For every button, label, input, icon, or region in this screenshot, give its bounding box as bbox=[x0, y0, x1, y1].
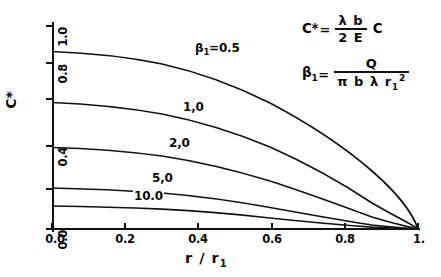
curve-beta-2.0 bbox=[52, 148, 418, 230]
x-tick-label-0.2: 0.2 bbox=[115, 232, 134, 246]
equation-cstar: C* = λ b 2 E C bbox=[302, 14, 441, 44]
curve-label-2.0: 2,0 bbox=[168, 137, 191, 149]
equations-block: C* = λ b 2 E C β1 = Q π b λ r12 bbox=[302, 14, 441, 91]
equation-cstar-fraction: λ b 2 E bbox=[335, 14, 366, 44]
equation-beta-fraction: Q π b λ r12 bbox=[334, 57, 409, 91]
x-tick-label-0.8: 0.8 bbox=[335, 232, 354, 246]
equation-cstar-numerator: λ b bbox=[335, 14, 366, 28]
equation-beta-denominator: π b λ r12 bbox=[334, 73, 409, 91]
curve-beta-10.0 bbox=[52, 206, 418, 229]
equation-beta-denominator-text: π b λ r bbox=[337, 74, 392, 89]
x-axis-title: r / r1 bbox=[185, 250, 228, 269]
curve-label-beta-0.5: β1=0.5 bbox=[194, 42, 241, 57]
x-tick-label-0.0: 0.0 bbox=[45, 232, 64, 246]
x-axis-title-text: r / r bbox=[185, 250, 220, 266]
equation-beta-symbol: β bbox=[302, 64, 311, 80]
equation-beta-equals: = bbox=[318, 68, 329, 81]
equation-cstar-tail: C bbox=[373, 22, 383, 36]
equation-beta-denominator-exponent: 2 bbox=[399, 73, 406, 83]
beta-value: =0.5 bbox=[209, 41, 240, 55]
equation-beta-subscript: 1 bbox=[311, 73, 317, 83]
curve-label-5.0: 5,0 bbox=[151, 172, 174, 184]
curve-beta-1.0 bbox=[52, 103, 418, 230]
curve-label-10.0: 10.0 bbox=[133, 190, 164, 202]
curve-label-1.0: 1,0 bbox=[182, 101, 205, 113]
equation-cstar-lhs: C* bbox=[302, 22, 318, 36]
equation-beta-numerator: Q bbox=[363, 57, 381, 71]
equation-beta-denominator-subscript: 1 bbox=[392, 82, 399, 92]
equation-beta: β1 = Q π b λ r12 bbox=[302, 57, 441, 91]
x-tick-label-0.6: 0.6 bbox=[262, 232, 281, 246]
x-tick-label-1.0: 1. bbox=[413, 232, 425, 246]
x-axis-title-subscript: 1 bbox=[220, 258, 228, 269]
equation-cstar-denominator: 2 E bbox=[335, 30, 366, 44]
figure-graph: 1.0 0.8 0.4 0.0 0.0 0.2 0.4 0.6 0.8 1. C… bbox=[0, 0, 441, 277]
y-axis-title: C* bbox=[3, 91, 19, 109]
equation-cstar-equals: = bbox=[319, 23, 330, 36]
equation-beta-lhs: β1 bbox=[302, 66, 317, 83]
curve-beta-5.0 bbox=[52, 188, 418, 229]
x-tick-label-0.4: 0.4 bbox=[188, 232, 207, 246]
